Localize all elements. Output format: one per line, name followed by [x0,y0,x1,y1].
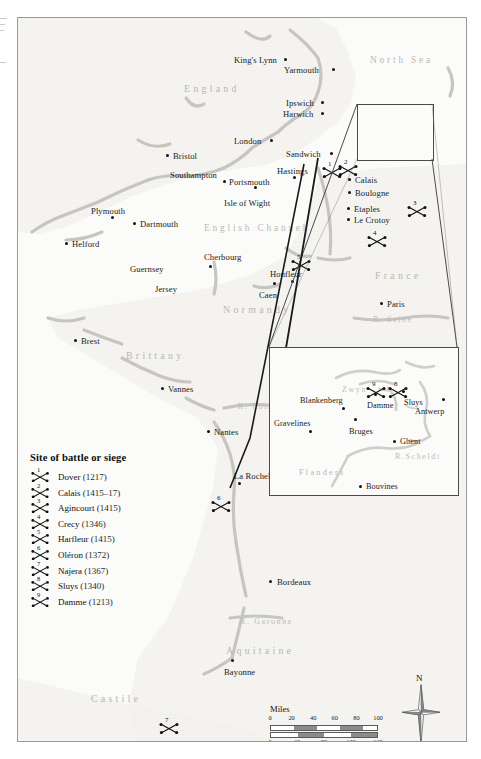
legend-entry-label: Sluys (1340) [58,581,104,591]
legend-battle-icon: 9 [30,593,52,609]
scale-tick-label: 80 [353,715,359,721]
legend-entry-label: Najera (1367) [58,566,108,576]
scale-tick-label: 120 [346,739,356,742]
legend-battle-icon: 4 [30,515,52,531]
legend-entry-label: Damme (1213) [58,597,113,607]
legend-entry-label: Calais (1415–17) [58,488,120,498]
legend-battle-icon: 2 [30,484,52,500]
scale-miles-ticks: 020406080100 [270,715,378,724]
legend-entry: 1Dover (1217) [28,469,178,485]
legend-battle-icon: 5 [30,530,52,546]
legend-entry-date: (1367) [84,566,108,576]
legend-entries: 1Dover (1217)2Calais (1415–17)3Agincourt… [28,469,178,609]
historical-map: North Sea English Channel England France… [17,17,467,742]
scale-tick-label: 40 [310,715,316,721]
scale-tick-label: 80 [321,739,327,742]
city-label: Antwerp [415,408,444,416]
legend-battle-icon: 8 [30,577,52,593]
compass-north-label: N [416,673,423,683]
legend-entry: 3Agincourt (1415) [28,500,178,516]
compass-needle-icon [398,683,444,742]
scale-bar: Miles 020406080100 04080120160 Kilometre… [270,704,390,742]
legend-entry: 2Calais (1415–17) [28,485,178,501]
scale-miles-bar [270,725,378,731]
legend-entry-date: (1415) [97,503,121,513]
legend-entry-label: Oléron (1372) [58,550,109,560]
legend-entry-date: (1340) [80,581,104,591]
city-label: Bouvines [366,483,398,491]
city-label: Sluys [404,399,423,407]
legend-entry: 4Crecy (1346) [28,516,178,532]
legend-battle-icon: 3 [30,499,52,515]
scale-km-ticks: 04080120160 [270,739,378,742]
city-label: Damme [367,402,393,410]
battle-marker: 9 [365,382,387,400]
legend-entry-date: (1346) [82,519,106,529]
scale-tick-label: 160 [373,739,383,742]
scale-tick-label: 60 [332,715,338,721]
legend-battle-icon: 7 [30,562,52,578]
scale-tick-label: 20 [288,715,294,721]
inset-river-label: Zwyn [342,386,367,394]
city-label: Bruges [349,428,373,436]
inset-map-flanders: Flanders R.Scheldt Zwyn BlankenbergGrave… [269,347,459,496]
legend-entry: 9Damme (1213) [28,594,178,610]
legend-entry-date: (1213) [89,597,113,607]
legend-battle-icon: 1 [30,468,52,484]
inset-region-label: Flanders [299,469,345,477]
legend-entry-date: (1415) [91,534,115,544]
scale-tick-label: 0 [268,715,271,721]
scale-tick-label: 40 [294,739,300,742]
legend-entry-label: Agincourt (1415) [58,503,121,513]
legend-title: Site of battle or siege [30,452,178,463]
legend: Site of battle or siege 1Dover (1217)2Ca… [28,452,178,609]
scale-tick-label: 100 [373,715,383,721]
city-label: Ghent [400,438,421,446]
city-label: Blankenberg [300,397,343,405]
legend-entry-label: Crecy (1346) [58,519,106,529]
inset-river-label: R.Scheldt [395,453,441,461]
legend-battle-icon: 6 [30,546,52,562]
legend-entry: 7Najera (1367) [28,563,178,579]
legend-entry: 5Harfleur (1415) [28,531,178,547]
legend-entry-date: (1415–17) [83,488,121,498]
compass-rose: N [398,673,444,742]
battle-marker: 8 [387,382,409,400]
page-edge-artifacts [0,0,10,759]
legend-entry: 8Sluys (1340) [28,578,178,594]
scale-tick-label: 0 [268,739,271,742]
legend-entry-label: Harfleur (1415) [58,534,115,544]
legend-entry-label: Dover (1217) [58,472,107,482]
city-label: Gravelines [274,420,310,428]
legend-entry-date: (1372) [85,550,109,560]
legend-entry: 6Oléron (1372) [28,547,178,563]
legend-entry-date: (1217) [83,472,107,482]
